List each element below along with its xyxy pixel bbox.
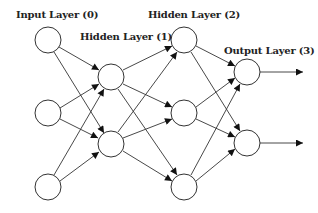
hidden2-node-1 <box>171 27 197 53</box>
network-graph <box>0 0 318 213</box>
input-node-2 <box>35 100 61 126</box>
hidden2-node-3 <box>171 174 197 200</box>
hidden1-node-1 <box>98 64 124 90</box>
hidden1-node-2 <box>98 131 124 157</box>
output-node-2 <box>234 130 260 156</box>
output-node-1 <box>234 59 260 85</box>
hidden2-node-2 <box>171 100 197 126</box>
neural-network-diagram: Input Layer (0) Hidden Layer (1) Hidden … <box>0 0 318 213</box>
input-node-1 <box>35 27 61 53</box>
input-node-3 <box>35 174 61 200</box>
